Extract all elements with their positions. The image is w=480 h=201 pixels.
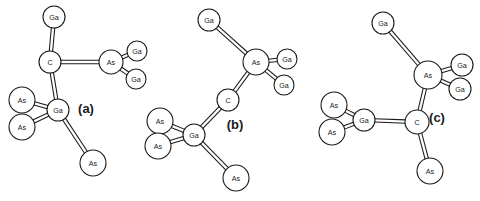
bond-ga-as <box>388 29 421 66</box>
atom-label: Ga <box>359 116 369 125</box>
panel-labels-layer: (a)(b)(c) <box>78 101 445 132</box>
atom-label: As <box>424 71 433 80</box>
atom-label: Ga <box>49 13 59 22</box>
atom-ga: Ga <box>47 99 69 121</box>
atom-ga: Ga <box>127 41 147 61</box>
atom-label: As <box>18 96 27 105</box>
bond-ga-as <box>169 136 185 144</box>
atom-label: As <box>328 128 337 137</box>
atom-label: C <box>414 118 419 127</box>
bond-ga-c <box>49 27 55 52</box>
atom-ga: Ga <box>451 54 473 76</box>
atom-label: Ga <box>53 106 63 115</box>
atom-c: C <box>217 89 239 111</box>
figure-container: GaCAsGaGaGaAsAsAsGaAsGaGaCGaAsAsAsGaAsGa… <box>0 0 480 201</box>
bond-c-ga <box>200 106 223 129</box>
atom-as: As <box>80 150 106 176</box>
atom-ga: Ga <box>353 109 375 131</box>
atom-label: Ga <box>378 19 388 28</box>
atom-ga: Ga <box>277 49 297 69</box>
atoms-layer: GaCAsGaGaGaAsAsAsGaAsGaGaCGaAsAsAsGaAsGa… <box>9 6 473 191</box>
atom-ga: Ga <box>449 78 471 100</box>
atom-label: Ga <box>132 47 142 56</box>
atom-c: C <box>39 51 61 73</box>
atom-as: As <box>243 49 269 75</box>
bond-ga-as <box>200 141 229 171</box>
atom-as: As <box>147 108 173 134</box>
atom-label: As <box>330 101 339 110</box>
atom-as: As <box>417 158 443 184</box>
bond-as-c <box>418 87 427 111</box>
figure-caption <box>8 193 472 201</box>
atom-label: Ga <box>189 131 199 140</box>
panel-label-c: (c) <box>429 110 445 125</box>
atom-as: As <box>414 61 442 89</box>
atom-label: As <box>154 142 163 151</box>
atom-ga: Ga <box>183 124 205 146</box>
bond-c-as <box>60 60 100 63</box>
bond-ga-as <box>62 117 88 154</box>
atom-ga: Ga <box>126 69 146 89</box>
atom-label: As <box>89 159 98 168</box>
bond-ga-as <box>33 102 49 109</box>
atom-ga: Ga <box>274 75 294 95</box>
atom-c: C <box>405 110 429 134</box>
atom-ga: Ga <box>198 9 220 31</box>
atom-as: As <box>9 114 35 140</box>
atom-label: As <box>107 58 116 67</box>
bond-c-ga <box>50 72 58 101</box>
atom-as: As <box>321 92 347 118</box>
molecular-structure-figure: GaCAsGaGaGaAsAsAsGaAsGaGaCGaAsAsAsGaAsGa… <box>0 0 480 201</box>
atom-as: As <box>319 119 345 145</box>
bond-ga-as <box>215 25 248 55</box>
atom-label: Ga <box>279 81 289 90</box>
atom-label: Ga <box>455 85 465 94</box>
atom-as: As <box>145 133 171 159</box>
atom-label: As <box>156 117 165 126</box>
atom-label: Ga <box>131 75 141 84</box>
atom-label: As <box>18 123 27 132</box>
atom-as: As <box>223 165 249 191</box>
atom-ga: Ga <box>43 6 65 28</box>
atom-label: As <box>252 58 261 67</box>
atom-label: Ga <box>457 61 467 70</box>
atom-label: Ga <box>204 16 214 25</box>
bond-as-c <box>233 71 251 93</box>
bond-ga-as <box>32 113 50 124</box>
panel-label-b: (b) <box>227 117 244 132</box>
bond-c-ga <box>374 119 406 124</box>
panel-label-a: (a) <box>78 101 94 116</box>
atom-as: As <box>99 50 123 74</box>
atom-label: Ga <box>282 55 292 64</box>
atom-label: As <box>426 167 435 176</box>
atom-ga: Ga <box>372 12 394 34</box>
bonds-layer <box>32 25 453 170</box>
atom-as: As <box>9 87 35 113</box>
atom-label: C <box>47 58 52 67</box>
bond-c-as <box>418 132 428 160</box>
atom-label: As <box>232 174 241 183</box>
atom-label: C <box>225 96 230 105</box>
